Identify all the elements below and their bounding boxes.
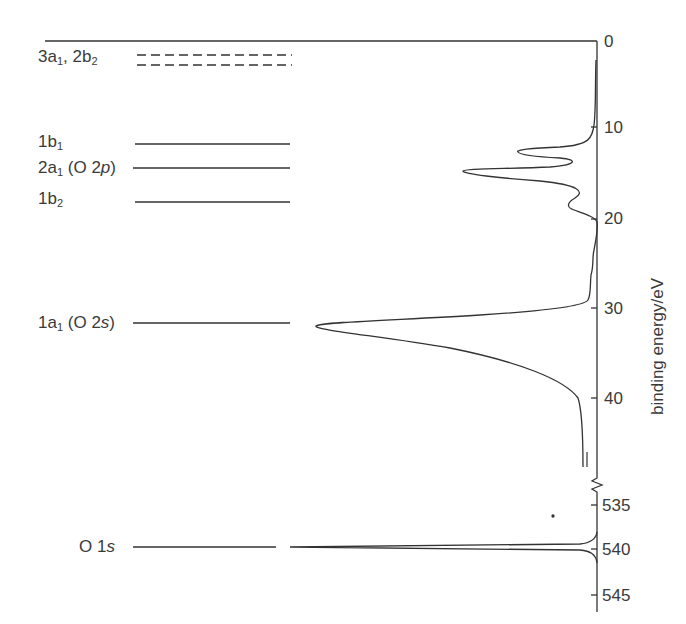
label-o1s: O 1s	[79, 538, 115, 555]
tick-540: 540	[602, 541, 630, 558]
label-2a1: 2a1 (O 2p)	[38, 159, 116, 176]
label-1b1: 1b1	[38, 133, 63, 150]
label-1b2: 1b2	[38, 190, 63, 207]
tick-40: 40	[604, 390, 623, 407]
label-1a1: 1a1 (O 2s)	[38, 314, 115, 331]
tick-545: 545	[602, 587, 630, 604]
axis-title: binding energy/eV	[648, 278, 668, 415]
tick-30: 30	[604, 300, 623, 317]
label-3a1-2b2: 3a1, 2b2	[38, 48, 98, 65]
tick-535: 535	[602, 497, 630, 514]
tick-10: 10	[604, 119, 623, 136]
core-spectrum	[290, 532, 597, 563]
spectrum-diagram	[0, 0, 686, 624]
valence-spectrum	[316, 60, 597, 467]
tick-0: 0	[604, 33, 613, 50]
tick-20: 20	[604, 210, 623, 227]
